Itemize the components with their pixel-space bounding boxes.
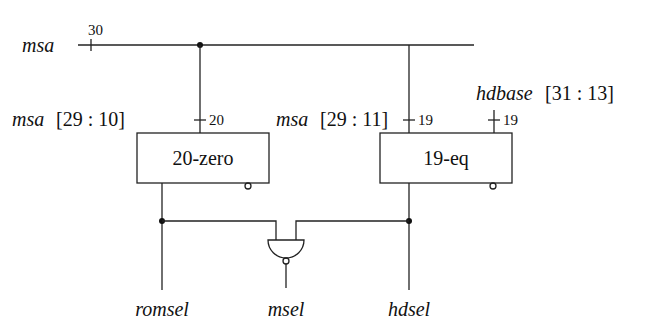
eq-input-b-name: hdbase xyxy=(476,82,533,104)
circuit-diagram: msa 30 msa [29 : 10] 20 20-zero msa [29 … xyxy=(0,0,656,336)
nand-gate xyxy=(268,240,304,258)
eq-input-a-width: 19 xyxy=(418,112,433,128)
zero-input-range: [29 : 10] xyxy=(56,108,125,130)
eq-input-a-name: msa xyxy=(276,108,308,130)
gate-input-left xyxy=(162,221,276,240)
eq-input-a-range: [29 : 11] xyxy=(320,108,388,130)
eq-inverted-output xyxy=(490,183,496,189)
romsel-label: romsel xyxy=(135,298,189,320)
hdsel-label: hdsel xyxy=(388,298,431,320)
gate-input-right xyxy=(296,221,409,240)
nand-bubble xyxy=(283,258,289,264)
zero-input-width: 20 xyxy=(209,112,224,128)
eq-block-label: 19-eq xyxy=(423,147,469,170)
eq-input-b-range: [31 : 13] xyxy=(545,82,614,104)
msa-width: 30 xyxy=(88,22,103,38)
msel-label: msel xyxy=(268,298,305,320)
msa-label: msa xyxy=(22,34,54,56)
zero-inverted-output xyxy=(245,183,251,189)
zero-input-name: msa xyxy=(12,108,44,130)
zero-block-label: 20-zero xyxy=(172,147,233,169)
eq-input-b-width: 19 xyxy=(503,112,518,128)
